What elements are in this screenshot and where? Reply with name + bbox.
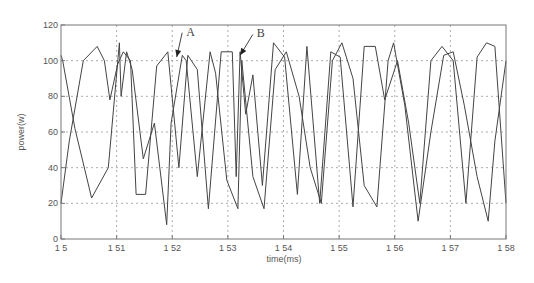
arrowhead-icon bbox=[240, 48, 246, 56]
y-axis-label: power(w) bbox=[16, 113, 26, 150]
x-tick-label: 1 5 bbox=[55, 243, 68, 253]
y-tick-label: 20 bbox=[48, 198, 58, 208]
x-tick-label: 1 56 bbox=[386, 243, 404, 253]
x-axis-ticks: 1 51 511 521 531 541 551 561 571 58 bbox=[55, 235, 515, 253]
y-tick-label: 0 bbox=[53, 234, 58, 244]
x-tick-label: 1 51 bbox=[108, 243, 126, 253]
x-tick-label: 1 58 bbox=[497, 243, 515, 253]
y-tick-label: 120 bbox=[43, 20, 58, 30]
y-tick-label: 100 bbox=[43, 56, 58, 66]
y-tick-label: 60 bbox=[48, 127, 58, 137]
annotations: AB bbox=[175, 25, 265, 57]
y-tick-label: 80 bbox=[48, 91, 58, 101]
x-axis-label: time(ms) bbox=[267, 254, 302, 264]
annotation-label-A: A bbox=[186, 25, 195, 39]
y-axis-ticks: 020406080100120 bbox=[43, 20, 65, 244]
x-tick-label: 1 54 bbox=[275, 243, 293, 253]
y-tick-label: 40 bbox=[48, 163, 58, 173]
x-tick-label: 1 57 bbox=[442, 243, 460, 253]
annotation-label-B: B bbox=[257, 26, 265, 40]
x-tick-label: 1 53 bbox=[219, 243, 237, 253]
x-tick-label: 1 52 bbox=[163, 243, 181, 253]
power-time-chart: 1 51 511 521 531 541 551 561 571 58 0204… bbox=[0, 0, 534, 283]
x-tick-label: 1 55 bbox=[330, 243, 348, 253]
arrowhead-icon bbox=[175, 50, 181, 57]
